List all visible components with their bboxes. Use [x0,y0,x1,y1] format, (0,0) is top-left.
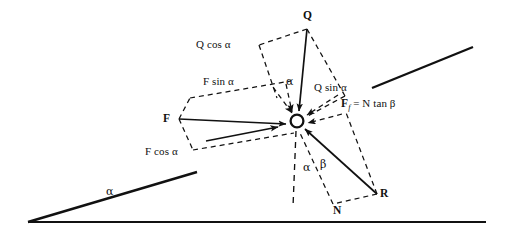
friction-equation-tail: = N tan β [350,97,395,109]
label-f-cos-alpha: F cos α [145,146,178,157]
vector-q-shaft [299,29,307,111]
incline-surface-right [372,47,473,88]
q-cos-alpha-parallelogram-top [259,29,307,45]
label-force-r: R [380,188,388,200]
vector-r-shaft [305,129,377,194]
f-sin-alpha-parallelogram-top [179,98,190,119]
label-force-q: Q [303,10,312,22]
vector-f-cos-alpha [206,127,278,141]
force-q-group [259,29,345,117]
normal-parallelogram-bottom [333,194,377,204]
q-sin-alpha-parallelogram-side [306,96,345,117]
friction-parallelogram-top [345,110,377,194]
diagram-canvas [0,0,505,248]
ground-and-incline-group [28,47,486,222]
label-angle-alpha-q: α [286,76,294,87]
f-cos-alpha-parallelogram-side [179,119,193,150]
vector-f-shaft [179,119,286,124]
label-angle-alpha-node: α [303,162,311,173]
label-friction-equation: Ff = N tan β [341,98,396,112]
force-f-group [179,81,294,150]
vector-q-cos-alpha [273,87,292,113]
label-q-sin-alpha: Q sin α [314,82,347,93]
f-cos-alpha-parallelogram-bottom [193,133,294,150]
label-q-cos-alpha: Q cos α [196,39,231,50]
force-diagram-figure: Q Q cos α Q sin α F sin α F cos α F Ff =… [0,0,505,248]
label-normal-n: N [333,205,341,217]
vector-f-sin-alpha [286,84,292,112]
label-force-f: F [163,113,170,125]
particle-node-circle [291,115,304,128]
label-angle-beta-node: β [320,159,326,170]
force-r-group [300,110,377,204]
vertical-reference-dashed-line [293,131,296,207]
label-angle-alpha-incline: α [106,186,114,197]
label-f-sin-alpha: F sin α [203,76,234,87]
vector-friction-ff [308,114,342,123]
q-cos-alpha-parallelogram-side [259,45,277,98]
vector-q-sin-alpha [307,95,338,115]
